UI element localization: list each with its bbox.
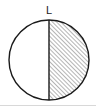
label-L: L [46, 4, 52, 16]
geometry-figure: L [0, 0, 96, 108]
figure-canvas: L [0, 0, 96, 108]
